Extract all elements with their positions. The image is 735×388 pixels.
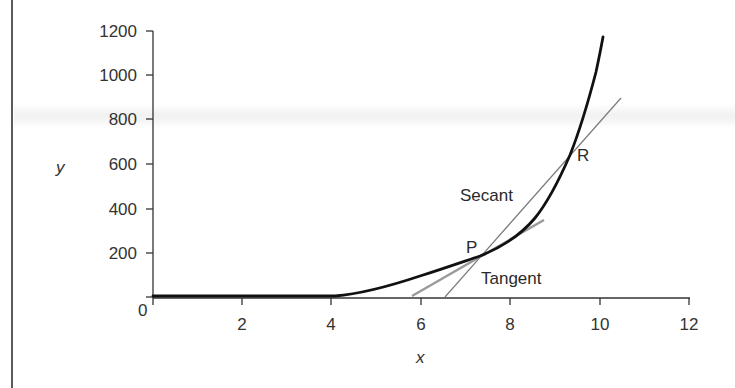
x-tick-label: 6	[416, 315, 425, 334]
x-ticks	[153, 298, 689, 305]
y-tick-label: 1000	[99, 66, 137, 85]
x-axis-label: x	[415, 348, 425, 367]
y-tick-label: 200	[109, 244, 137, 263]
x-tick-label: 4	[326, 315, 335, 334]
y-tick-label: 400	[109, 200, 137, 219]
chart: 200 400 600 800 1000 1200 0 2 4 6 8 10 1…	[0, 0, 735, 388]
tangent-label: Tangent	[481, 269, 542, 288]
point-r-label: R	[577, 146, 589, 165]
secant-label: Secant	[460, 186, 513, 205]
x-tick-label: 2	[237, 315, 246, 334]
y-tick-label: 800	[109, 110, 137, 129]
x-tick-labels: 2 4 6 8 10 12	[237, 315, 698, 334]
function-curve	[153, 37, 603, 296]
y-tick-label: 1200	[99, 22, 137, 41]
y-ticks	[146, 31, 153, 297]
y-axis-label: y	[55, 158, 66, 177]
point-p-label: P	[466, 238, 477, 257]
y-tick-labels: 200 400 600 800 1000 1200	[99, 22, 137, 263]
x-tick-label: 10	[591, 315, 610, 334]
y-tick-label: 600	[109, 155, 137, 174]
origin-label: 0	[138, 301, 147, 320]
x-tick-label: 8	[505, 315, 514, 334]
x-tick-label: 12	[680, 315, 699, 334]
axes	[153, 31, 690, 298]
